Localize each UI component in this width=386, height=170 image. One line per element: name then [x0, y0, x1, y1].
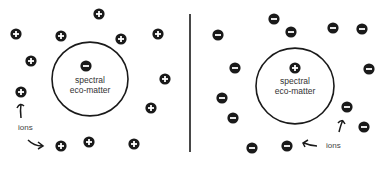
- negative-ion-icon: [268, 13, 279, 24]
- negative-ion-icon: [327, 22, 338, 33]
- left-center-label: spectral eco-matter: [62, 75, 118, 95]
- negative-ion-icon: [212, 29, 223, 40]
- positive-ion-icon: [115, 33, 126, 44]
- right-arrow-left-icon: [303, 140, 317, 147]
- negative-ion-icon: [358, 121, 369, 132]
- negative-ion-icon: [363, 63, 374, 74]
- positive-ion-icon: [55, 140, 66, 151]
- negative-ion-icon: [246, 142, 257, 153]
- negative-ion-icon: [356, 23, 367, 34]
- positive-ion-icon: [83, 136, 94, 147]
- positive-ion-icon: [55, 30, 66, 41]
- positive-ion-icon: [25, 55, 36, 66]
- positive-ion-icon: [145, 102, 156, 113]
- center-positive-ion-icon: [289, 62, 300, 73]
- positive-ion-icon: [10, 28, 21, 39]
- left-arrow-up-icon: [17, 104, 24, 118]
- positive-ion-icon: [128, 138, 139, 149]
- right-ions-label: ions: [326, 141, 341, 150]
- negative-ion-icon: [341, 101, 352, 112]
- negative-ion-icon: [285, 26, 296, 37]
- positive-ion-icon: [93, 8, 104, 19]
- right-center-label: spectral eco-matter: [267, 76, 323, 96]
- left-ions-label: ions: [18, 123, 33, 132]
- left-arrow-right-icon: [28, 140, 43, 149]
- positive-ion-icon: [15, 86, 26, 97]
- right-arrow-up-icon: [338, 120, 345, 132]
- negative-ion-icon: [281, 140, 292, 151]
- center-negative-ion-icon: [80, 60, 91, 71]
- negative-ion-icon: [216, 92, 227, 103]
- positive-ion-icon: [152, 28, 163, 39]
- negative-ion-icon: [227, 112, 238, 123]
- positive-ion-icon: [159, 73, 170, 84]
- negative-ion-icon: [229, 62, 240, 73]
